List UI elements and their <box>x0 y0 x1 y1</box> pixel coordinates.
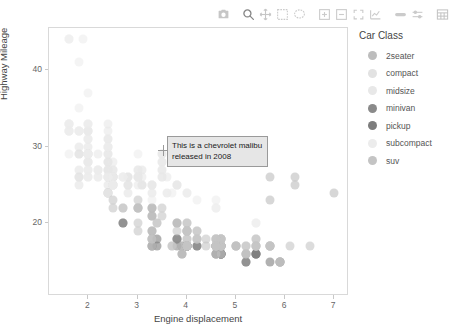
data-point[interactable] <box>64 127 73 136</box>
data-point[interactable] <box>64 150 73 159</box>
pan-icon[interactable] <box>257 6 273 22</box>
data-point[interactable] <box>108 203 117 212</box>
legend-items[interactable]: 2seatercompactmidsizeminivanpickupsubcom… <box>357 47 453 170</box>
data-point[interactable] <box>266 196 275 205</box>
data-point[interactable] <box>192 242 201 251</box>
data-point[interactable] <box>148 234 157 243</box>
data-point[interactable] <box>266 257 275 266</box>
data-point[interactable] <box>123 188 132 197</box>
data-point[interactable] <box>74 180 83 189</box>
data-point[interactable] <box>212 196 221 205</box>
data-point[interactable] <box>118 203 127 212</box>
data-point[interactable] <box>305 242 314 251</box>
data-point[interactable] <box>148 242 157 251</box>
data-point[interactable] <box>158 173 167 182</box>
data-point[interactable] <box>84 150 93 159</box>
hover-compare-icon[interactable] <box>409 6 425 22</box>
data-point[interactable] <box>118 219 127 228</box>
data-point[interactable] <box>94 150 103 159</box>
modebar-group-drag[interactable] <box>240 6 307 22</box>
data-point[interactable] <box>251 242 260 251</box>
data-point[interactable] <box>241 257 250 266</box>
data-point[interactable] <box>133 196 142 205</box>
data-point[interactable] <box>74 127 83 136</box>
data-point[interactable] <box>177 249 186 258</box>
zoom-out-icon[interactable] <box>333 6 349 22</box>
data-point[interactable] <box>108 158 117 167</box>
data-point[interactable] <box>84 127 93 136</box>
autoscale-icon[interactable] <box>350 6 366 22</box>
data-point[interactable] <box>133 150 142 159</box>
data-point[interactable] <box>172 226 181 235</box>
data-point[interactable] <box>84 135 93 144</box>
zoom-in-icon[interactable] <box>316 6 332 22</box>
data-point[interactable] <box>104 119 113 128</box>
legend-item-midsize[interactable]: midsize <box>357 82 453 100</box>
data-point[interactable] <box>251 234 260 243</box>
data-point[interactable] <box>74 104 83 113</box>
modebar-group-table[interactable] <box>434 6 450 22</box>
legend-item-suv[interactable]: suv <box>357 152 453 170</box>
modebar-group-zoom[interactable] <box>316 6 383 22</box>
data-point[interactable] <box>94 173 103 182</box>
data-point[interactable] <box>167 188 176 197</box>
legend-item-2seater[interactable]: 2seater <box>357 47 453 65</box>
data-point[interactable] <box>133 226 142 235</box>
data-point[interactable] <box>251 249 260 258</box>
data-point[interactable] <box>74 58 83 67</box>
data-point[interactable] <box>266 173 275 182</box>
data-point[interactable] <box>212 249 221 258</box>
data-point[interactable] <box>192 196 201 205</box>
legend-item-pickup[interactable]: pickup <box>357 117 453 135</box>
data-point[interactable] <box>79 35 88 44</box>
legend[interactable]: Car Class 2seatercompactmidsizeminivanpi… <box>357 30 453 170</box>
data-point[interactable] <box>133 180 142 189</box>
data-point[interactable] <box>212 203 221 212</box>
reset-axes-icon[interactable] <box>367 6 383 22</box>
data-point[interactable] <box>266 242 275 251</box>
data-point[interactable] <box>118 173 127 182</box>
data-point[interactable] <box>108 180 117 189</box>
data-point[interactable] <box>74 142 83 151</box>
data-point[interactable] <box>202 242 211 251</box>
camera-icon[interactable] <box>215 6 231 22</box>
data-point[interactable] <box>84 119 93 128</box>
data-point[interactable] <box>182 188 191 197</box>
data-point[interactable] <box>133 203 142 212</box>
data-point[interactable] <box>74 173 83 182</box>
legend-item-compact[interactable]: compact <box>357 65 453 83</box>
lasso-select-icon[interactable] <box>291 6 307 22</box>
data-point[interactable] <box>276 257 285 266</box>
modebar-group-download[interactable] <box>215 6 231 22</box>
data-point[interactable] <box>104 142 113 151</box>
data-point[interactable] <box>167 242 176 251</box>
data-point[interactable] <box>84 173 93 182</box>
data-point[interactable] <box>290 180 299 189</box>
data-point[interactable] <box>251 219 260 228</box>
data-point[interactable] <box>94 165 103 174</box>
data-point[interactable] <box>285 242 294 251</box>
data-point[interactable] <box>148 180 157 189</box>
data-point[interactable] <box>153 219 162 228</box>
data-point[interactable] <box>64 35 73 44</box>
modebar-group-hover[interactable] <box>392 6 425 22</box>
data-point[interactable] <box>133 173 142 182</box>
data-point[interactable] <box>231 242 240 251</box>
data-point[interactable] <box>182 242 191 251</box>
data-point[interactable] <box>74 165 83 174</box>
data-point[interactable] <box>74 150 83 159</box>
legend-item-subcompact[interactable]: subcompact <box>357 135 453 153</box>
zoom-icon[interactable] <box>240 6 256 22</box>
data-point[interactable] <box>182 226 191 235</box>
data-point[interactable] <box>212 242 221 251</box>
data-point[interactable] <box>192 234 201 243</box>
box-select-icon[interactable] <box>274 6 290 22</box>
data-point[interactable] <box>330 188 339 197</box>
table-icon[interactable] <box>434 6 450 22</box>
spike-lines-icon[interactable] <box>392 6 408 22</box>
data-point[interactable] <box>84 89 93 98</box>
legend-item-minivan[interactable]: minivan <box>357 100 453 118</box>
plotly-modebar[interactable] <box>215 5 450 23</box>
data-point[interactable] <box>241 249 250 258</box>
data-point[interactable] <box>202 234 211 243</box>
